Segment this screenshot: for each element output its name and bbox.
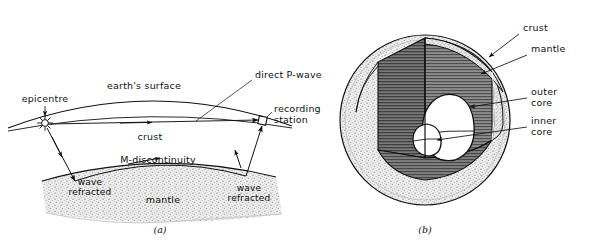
- label-mantle-b: mantle: [531, 43, 566, 54]
- caption-panel-a: (a): [153, 224, 166, 235]
- panel-b: crust mantle outer core inner core (b): [340, 22, 566, 235]
- crust-band: [8, 101, 292, 131]
- label-crust: crust: [138, 131, 163, 142]
- downgoing-ray-left-midarrow: [52, 137, 62, 157]
- label-wave-refracted-right-line2: refracted: [228, 193, 271, 203]
- caption-panel-b: (b): [418, 224, 432, 235]
- label-recording-station-line2: station: [274, 114, 308, 125]
- label-inner-core-line2: core: [531, 126, 552, 137]
- label-crust-b: crust: [523, 22, 548, 33]
- crust-leader: [489, 34, 519, 57]
- upgoing-ray-right-midarrow: [235, 150, 241, 168]
- label-outer-core-line1: outer: [531, 86, 557, 97]
- label-inner-core-line1: inner: [531, 115, 556, 126]
- label-m-discontinuity: M-discontinuity: [120, 154, 196, 165]
- label-wave-refracted-left-line2: refracted: [69, 187, 112, 197]
- label-outer-core-line2: core: [531, 97, 552, 108]
- label-wave-refracted-left-line1: wave: [78, 177, 103, 187]
- figure-root: epicentre earth's surface direct P-wave …: [0, 0, 608, 249]
- label-mantle: mantle: [146, 194, 181, 205]
- label-recording-station-line1: recording: [274, 103, 321, 114]
- label-direct-p-wave: direct P-wave: [255, 69, 322, 80]
- figure-svg: epicentre earth's surface direct P-wave …: [0, 0, 608, 249]
- recording-station-marker: [258, 116, 267, 125]
- direct-p-wave-ray-midarrow: [120, 122, 152, 123]
- label-earths-surface: earth's surface: [107, 80, 181, 91]
- epicentre-marker: [38, 116, 53, 131]
- recording-station-leader: [266, 112, 272, 118]
- label-wave-refracted-right-line1: wave: [237, 183, 262, 193]
- panel-a: epicentre earth's surface direct P-wave …: [8, 69, 322, 235]
- upgoing-ray-right: [246, 126, 262, 176]
- label-epicentre: epicentre: [22, 93, 69, 104]
